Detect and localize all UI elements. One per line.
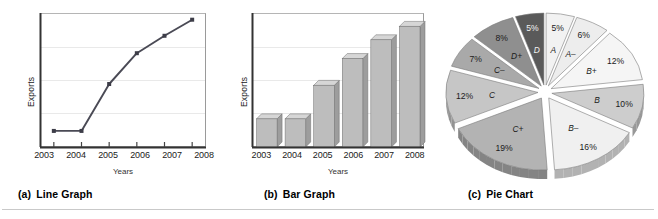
pie-slice-percent-label: 16% [580,142,598,152]
line-graph-tick-marks [54,142,192,147]
pie-slice-grade-label: A [550,45,557,55]
x-tick-label: 2006 [124,150,156,160]
bar-graph-x-tick-labels: 200320042005200620072008 [246,150,430,160]
caption-bar-graph: (b)Bar Graph [264,188,335,200]
caption-text: Line Graph [36,188,92,200]
pie-slice-percent-label: 6% [578,30,591,40]
bar-graph-svg [218,0,438,219]
line-graph-y-axis-label: Exports [26,77,36,107]
pie-slice-percent-label: 7% [469,54,482,64]
pie-slice-grade-label: C– [494,65,505,75]
caption-text: Pie Chart [486,188,533,200]
x-tick-label: 2006 [338,150,369,160]
pie-slice-grade-label: A– [564,49,576,59]
x-tick-label: 2004 [60,150,92,160]
pie-slice-percent-label: 10% [616,99,634,109]
pie-slice-grade-label: C [489,90,496,100]
caption-index: (c) [468,188,481,200]
pie-chart-svg: A5%A–6%B+12%B10%B–16%C+19%C12%C–7%D+8%D5… [432,4,658,184]
caption-index: (a) [18,188,31,200]
line-graph-series [54,20,192,131]
bottom-divider [2,209,654,210]
pie-slice-grade-label: B [594,95,600,105]
line-graph-x-axis-title: Years [40,167,206,176]
x-tick-label: 2004 [277,150,308,160]
x-tick-label: 2003 [28,150,60,160]
pie-chart-slices [446,13,644,179]
x-tick-label: 2007 [156,150,188,160]
pie-slice-grade-label: C+ [513,124,524,134]
bar-graph-bars [257,21,425,147]
bar-graph-y-axis-label: Exports [239,77,249,107]
pie-slice-grade-label: D+ [511,51,522,61]
pie-slice-grade-label: B+ [586,66,597,76]
panel-bar-graph: Exports 200320042005200620072008 Years (… [218,0,438,219]
line-graph-x-tick-labels: 200320042005200620072008 [28,150,220,160]
caption-pie-chart: (c)Pie Chart [468,188,533,200]
pie-slice-percent-label: 12% [456,91,474,101]
x-tick-label: 2005 [92,150,124,160]
line-graph-svg [0,0,220,219]
pie-slice-grade-label: D [534,45,540,55]
pie-slice-percent-label: 12% [607,56,625,66]
panel-line-graph: Exports 200320042005200620072008 Years (… [0,0,220,219]
caption-line-graph: (a)Line Graph [18,188,93,200]
x-tick-label: 2005 [307,150,338,160]
pie-slice-percent-label: 5% [551,23,564,33]
caption-index: (b) [264,188,278,200]
x-tick-label: 2007 [369,150,400,160]
x-tick-label: 2003 [246,150,277,160]
panel-pie-chart: A5%A–6%B+12%B10%B–16%C+19%C12%C–7%D+8%D5… [432,0,658,219]
bar-graph-x-axis-title: Years [252,167,424,176]
figure-container: Exports 200320042005200620072008 Years (… [0,0,658,219]
pie-slice-percent-label: 8% [496,33,509,43]
line-graph-markers [52,18,194,133]
caption-text: Bar Graph [283,188,335,200]
pie-slice-grade-label: B– [568,123,579,133]
pie-slice-percent-label: 19% [495,143,513,153]
pie-slice-percent-label: 5% [526,23,539,33]
x-tick-label: 2008 [399,150,430,160]
x-tick-label: 2008 [188,150,220,160]
